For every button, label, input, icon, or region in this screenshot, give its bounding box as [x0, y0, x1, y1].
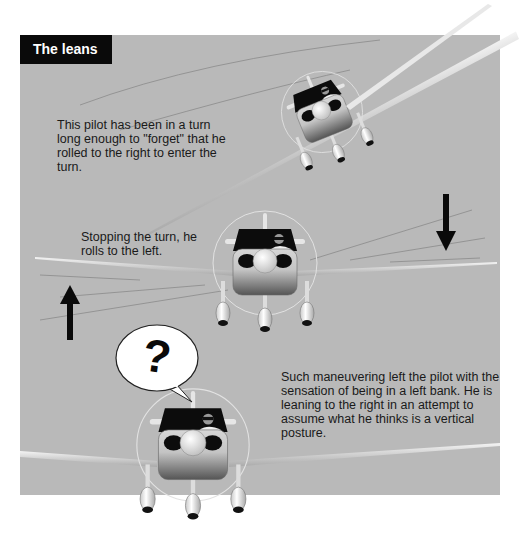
- illustration-art: [0, 0, 520, 541]
- question-mark-icon: ?: [133, 326, 180, 385]
- arrow-up-icon: [60, 285, 80, 340]
- caption-pilot-in-turn: This pilot has been in a turn long enoug…: [57, 118, 227, 174]
- caption-left-bank-sensation: Such maneuvering left the pilot with the…: [281, 370, 501, 440]
- caption-stopping-turn: Stopping the turn, he rolls to the left.: [81, 230, 211, 258]
- figure-title: The leans: [20, 35, 112, 64]
- arrow-down-icon: [436, 194, 456, 251]
